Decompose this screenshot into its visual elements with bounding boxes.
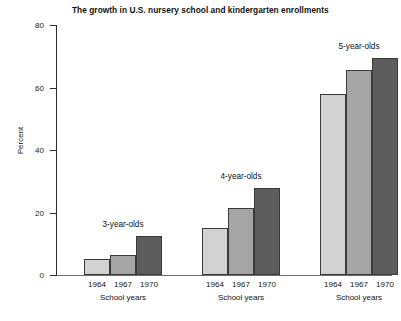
group-label: 3-year-olds	[68, 220, 178, 229]
bar	[254, 188, 280, 276]
x-axis-group-title: School years	[68, 293, 178, 302]
bar	[110, 255, 136, 275]
bar	[84, 259, 110, 275]
y-axis-tick	[50, 275, 57, 276]
bar-chart: The growth in U.S. nursery school and ki…	[0, 0, 401, 321]
bar	[372, 58, 398, 275]
y-axis-title: Percent	[16, 111, 25, 171]
y-axis-tick-label: 20	[10, 208, 44, 217]
chart-title: The growth in U.S. nursery school and ki…	[72, 5, 372, 15]
x-axis-group-title: School years	[304, 293, 401, 302]
bar	[320, 94, 346, 275]
bars-layer	[56, 25, 392, 275]
bar	[202, 228, 228, 275]
y-axis-tick-label: 40	[10, 146, 44, 155]
y-axis-tick-label: 0	[10, 271, 44, 280]
bar	[136, 236, 162, 275]
x-axis-year-label: 1970	[370, 280, 400, 289]
group-label: 5-year-olds	[304, 42, 401, 51]
y-axis-tick-label: 60	[10, 83, 44, 92]
bar	[228, 208, 254, 275]
x-axis-year-label: 1970	[134, 280, 164, 289]
y-axis-tick-label: 80	[10, 21, 44, 30]
group-label: 4-year-olds	[186, 172, 296, 181]
bar	[346, 70, 372, 275]
x-axis-year-label: 1970	[252, 280, 282, 289]
x-axis-group-title: School years	[186, 293, 296, 302]
x-axis-line	[56, 275, 392, 276]
